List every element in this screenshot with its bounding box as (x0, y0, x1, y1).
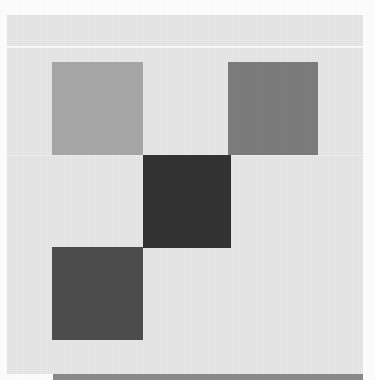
center-block[interactable] (143, 155, 231, 248)
upper-separator-rule (7, 46, 363, 48)
screenshot-canvas (0, 0, 375, 380)
bottom-bar[interactable] (53, 374, 363, 380)
top-right-block[interactable] (228, 62, 318, 155)
top-left-block[interactable] (52, 62, 143, 155)
bottom-left-block[interactable] (52, 247, 143, 340)
